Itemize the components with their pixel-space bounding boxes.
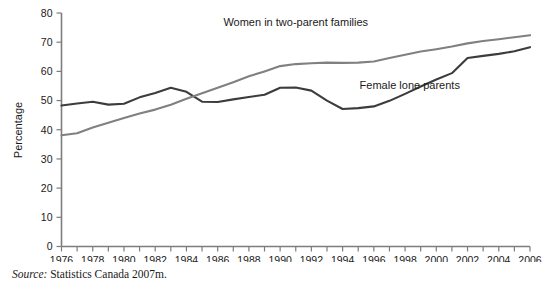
x-axis-ticks: 1976197819801982198419861988199019921994… bbox=[50, 247, 542, 263]
y-tick-label: 10 bbox=[41, 211, 53, 223]
y-axis-title: Percentage bbox=[12, 102, 24, 158]
x-tick-label: 1984 bbox=[175, 254, 199, 263]
y-axis-ticks: 01020304050607080 bbox=[41, 7, 62, 253]
x-tick-label: 1980 bbox=[112, 254, 136, 263]
y-tick-label: 0 bbox=[47, 240, 53, 252]
y-tick-label: 60 bbox=[41, 65, 53, 77]
x-tick-label: 1998 bbox=[393, 254, 417, 263]
series-label-women-in-two-parent-families: Women in two-parent families bbox=[223, 16, 368, 28]
y-tick-label: 80 bbox=[41, 7, 53, 19]
source-value: Statistics Canada 2007m. bbox=[47, 268, 166, 280]
x-tick-label: 1992 bbox=[300, 254, 324, 263]
x-tick-label: 2004 bbox=[487, 254, 511, 263]
x-tick-label: 1990 bbox=[268, 254, 292, 263]
x-tick-label: 1996 bbox=[362, 254, 386, 263]
series-label-female-lone-parents: Female lone parents bbox=[360, 79, 461, 91]
series-annotations: Female lone parentsWomen in two-parent f… bbox=[223, 16, 460, 91]
source-label: Source: bbox=[12, 268, 47, 280]
x-tick-label: 1994 bbox=[331, 254, 355, 263]
chart-figure: Percentage 01020304050607080 19761978198… bbox=[0, 0, 545, 290]
x-tick-label: 2002 bbox=[456, 254, 480, 263]
x-tick-label: 1976 bbox=[50, 254, 74, 263]
x-tick-label: 2000 bbox=[425, 254, 449, 263]
line-chart: Percentage 01020304050607080 19761978198… bbox=[0, 0, 545, 262]
y-tick-label: 50 bbox=[41, 94, 53, 106]
x-tick-label: 1982 bbox=[144, 254, 168, 263]
y-tick-label: 30 bbox=[41, 153, 53, 165]
y-tick-label: 20 bbox=[41, 182, 53, 194]
source-note: Source: Statistics Canada 2007m. bbox=[12, 268, 167, 280]
x-tick-label: 2006 bbox=[518, 254, 542, 263]
y-tick-label: 70 bbox=[41, 36, 53, 48]
x-tick-label: 1986 bbox=[206, 254, 230, 263]
y-tick-label: 40 bbox=[41, 124, 53, 136]
x-tick-label: 1978 bbox=[81, 254, 105, 263]
x-tick-label: 1988 bbox=[237, 254, 261, 263]
